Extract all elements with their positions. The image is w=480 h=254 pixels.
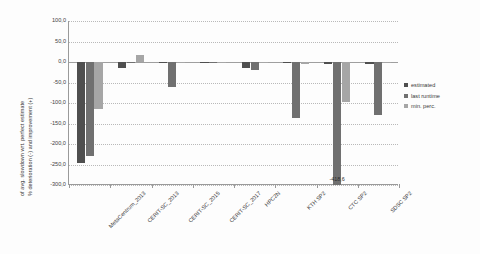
x-axis-category-label: HPC2N xyxy=(263,190,281,208)
x-axis-category-label: SDSC SP2 xyxy=(389,190,413,214)
bar xyxy=(200,62,208,63)
bar-chart: % deterioration (-) and improvement (+) … xyxy=(0,0,480,254)
bar xyxy=(301,62,309,64)
y-axis-tick-labels: 100,050,00,0-50,0-100,0-150,0-200,0-250,… xyxy=(30,0,66,254)
bar xyxy=(86,62,94,156)
bar xyxy=(251,62,259,70)
bar-group: -418,6 xyxy=(317,21,358,184)
legend-swatch-icon xyxy=(404,83,408,87)
bar xyxy=(342,62,350,102)
bar xyxy=(242,62,250,68)
y-axis-tick-label: -300,0 xyxy=(32,182,66,188)
bar xyxy=(159,62,167,63)
x-axis-category-labels: MetaCentrum_2013CERIT-SC_2013CERIT-SC_20… xyxy=(68,186,398,252)
bar xyxy=(324,62,332,64)
x-axis-category-label: CERIT-SC_2013 xyxy=(146,190,180,224)
x-axis-category-label: CTC SP2 xyxy=(347,190,368,211)
x-axis-category-label: KTH SP2 xyxy=(306,190,327,211)
bar xyxy=(77,62,85,163)
bar xyxy=(333,62,341,185)
y-axis-tick-label: -200,0 xyxy=(32,141,66,147)
x-axis-tickmark xyxy=(399,184,400,188)
bar xyxy=(118,62,126,68)
x-axis-category-label: MetaCentrum_2013 xyxy=(107,190,146,229)
bar-data-label: -418,6 xyxy=(325,176,349,182)
y-axis-tick-label: 50,0 xyxy=(32,39,66,45)
bar-group xyxy=(110,21,151,184)
legend-label: estimated xyxy=(411,82,435,88)
bar xyxy=(365,62,373,64)
bar-group xyxy=(193,21,234,184)
bar-group xyxy=(152,21,193,184)
y-axis-title-line-2: of avg. slowdown wrt. perfect estimate xyxy=(19,101,25,196)
bar xyxy=(168,62,176,87)
y-axis-tick-label: -250,0 xyxy=(32,162,66,168)
bar-group xyxy=(358,21,399,184)
legend-label: last runtime xyxy=(411,93,440,99)
bar xyxy=(94,62,102,109)
bar-group xyxy=(275,21,316,184)
x-axis-category-label: CERIT-SC_2015 xyxy=(187,190,221,224)
bar xyxy=(383,62,391,63)
bar xyxy=(292,62,300,118)
bar xyxy=(218,62,226,63)
bar-groups: -418,6 xyxy=(69,21,398,184)
legend-item: last runtime xyxy=(404,93,478,99)
y-axis-tick-label: 0,0 xyxy=(32,59,66,65)
legend-item: estimated xyxy=(404,82,478,88)
legend-label: min. perc. xyxy=(411,103,436,109)
y-axis-tick-label: -50,0 xyxy=(32,80,66,86)
bar xyxy=(136,55,144,62)
bar xyxy=(259,62,267,63)
y-axis-tick-label: -100,0 xyxy=(32,100,66,106)
bar xyxy=(283,62,291,63)
y-axis-title: % deterioration (-) and improvement (+) … xyxy=(2,8,32,198)
x-axis-category-label: CERIT-SC_2017 xyxy=(229,190,263,224)
plot-area: -418,6 xyxy=(68,21,398,185)
bar-group xyxy=(69,21,110,184)
legend-swatch-icon xyxy=(404,104,408,108)
y-axis-tick-label: -150,0 xyxy=(32,121,66,127)
chart-legend: estimatedlast runtimemin. perc. xyxy=(404,82,478,114)
bar-group xyxy=(234,21,275,184)
bar xyxy=(209,62,217,63)
bar xyxy=(127,62,135,63)
legend-swatch-icon xyxy=(404,94,408,98)
bar xyxy=(374,62,382,115)
bar xyxy=(177,62,185,63)
y-axis-tick-label: 100,0 xyxy=(32,18,66,24)
legend-item: min. perc. xyxy=(404,103,478,109)
